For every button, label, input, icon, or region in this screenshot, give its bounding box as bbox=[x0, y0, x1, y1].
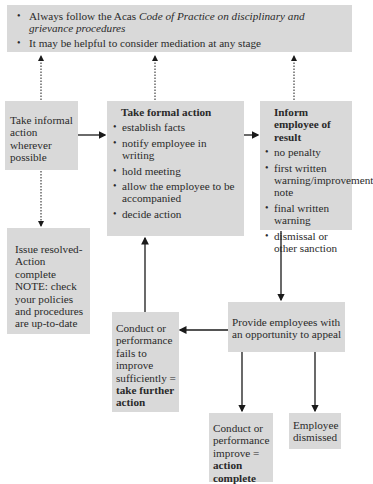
formal-item: establish facts bbox=[113, 121, 240, 133]
take-further-action-text: take further action bbox=[116, 384, 174, 408]
improves-text: Conduct or performance improve = bbox=[213, 422, 270, 459]
action-complete-text: Action complete bbox=[15, 255, 65, 280]
fails-text: Conduct or performance fails to improve … bbox=[116, 322, 176, 384]
policy-note: NOTE: check your policies and procedures… bbox=[15, 280, 86, 330]
box-informal-action: Take informal action wherever possible bbox=[5, 101, 78, 170]
box-formal-action: Take formal action establish facts notif… bbox=[107, 101, 244, 236]
banner-item-acas-code: Always follow the Acas Code of Practice … bbox=[17, 10, 344, 35]
formal-action-title: Take formal action bbox=[113, 106, 240, 118]
banner-text: It may be helpful to consider mediation … bbox=[29, 37, 261, 49]
inform-item: final written warning bbox=[265, 202, 349, 227]
formal-item: allow the employee to be accompanied bbox=[113, 180, 240, 205]
box-inform-employee: Inform employee of result no penalty fir… bbox=[260, 101, 352, 230]
box-employee-dismissed: Employee dismissed bbox=[289, 413, 341, 449]
resolved-text: Issue resolved- bbox=[15, 243, 86, 255]
formal-item: notify employee in writing bbox=[113, 137, 240, 162]
inform-item: first written warning/improvement note bbox=[265, 162, 349, 199]
formal-item: decide action bbox=[113, 208, 240, 220]
banner-text: Always follow the Acas bbox=[29, 10, 139, 22]
box-conduct-fails: Conduct or performance fails to improve … bbox=[112, 312, 179, 412]
box-issue-resolved: Issue resolved- Action complete NOTE: ch… bbox=[7, 228, 90, 334]
action-complete-text: action complete bbox=[213, 459, 256, 483]
inform-employee-title: Inform employee of result bbox=[265, 106, 349, 143]
formal-item: hold meeting bbox=[113, 165, 240, 177]
appeal-text: Provide employees with an opportunity to… bbox=[232, 316, 341, 340]
inform-item: dismissal or other sanction bbox=[265, 230, 349, 255]
box-appeal: Provide employees with an opportunity to… bbox=[228, 302, 345, 352]
banner-item-mediation: It may be helpful to consider mediation … bbox=[17, 37, 344, 49]
dismissed-text: Employee dismissed bbox=[293, 419, 338, 443]
inform-item: no penalty bbox=[265, 146, 349, 158]
box-conduct-improves: Conduct or performance improve = action … bbox=[209, 413, 273, 482]
guidance-banner: Always follow the Acas Code of Practice … bbox=[7, 5, 352, 52]
informal-action-text: Take informal action wherever possible bbox=[10, 114, 73, 163]
